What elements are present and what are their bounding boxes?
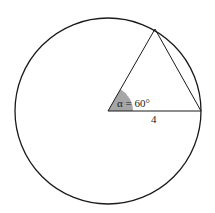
radius-label: 4	[151, 113, 157, 125]
chord	[155, 29, 201, 111]
geometry-diagram: α = 60° 4	[0, 0, 215, 213]
angle-label: α = 60°	[117, 97, 150, 109]
